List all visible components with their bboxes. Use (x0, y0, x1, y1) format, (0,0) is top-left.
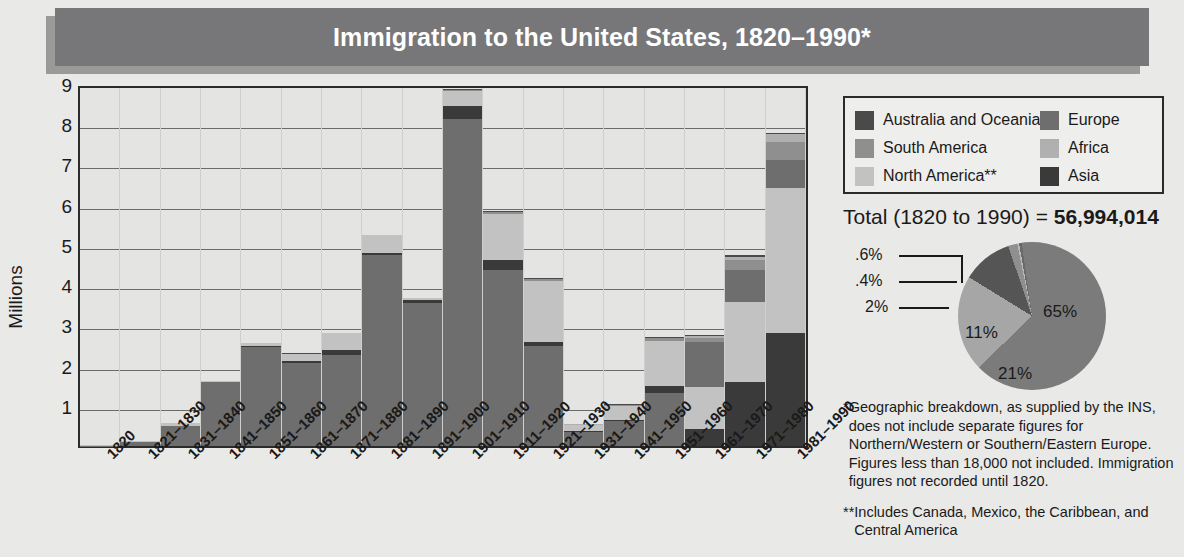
bar-segment (524, 281, 564, 342)
y-tick-label: 2 (61, 357, 72, 379)
bar-column (282, 88, 322, 446)
legend-swatch-icon (1040, 111, 1059, 130)
bar-segment (443, 91, 483, 106)
total-label: Total (1820 to 1990) = 56,994,014 (843, 205, 1159, 229)
pie-leader-line (899, 307, 949, 309)
legend-item: Australia and Oceania (855, 111, 1040, 130)
bar-segment (766, 160, 806, 188)
y-tick-label: 8 (61, 115, 72, 137)
bar-column (362, 88, 402, 446)
pie-slice-label: 21% (998, 364, 1032, 384)
bar-segment (645, 341, 685, 386)
y-tick-label: 7 (61, 155, 72, 177)
total-value: 56,994,014 (1054, 205, 1159, 228)
bar-segment (362, 235, 402, 252)
bar-column (322, 88, 362, 446)
pie-callout-label: 2% (865, 298, 888, 316)
bar-segment (725, 260, 765, 270)
y-tick-label: 4 (61, 276, 72, 298)
legend: Australia and OceaniaEuropeSouth America… (843, 96, 1164, 194)
legend-label: Asia (1068, 167, 1099, 185)
legend-item: Europe (1040, 111, 1120, 130)
bar-segment (766, 142, 806, 160)
pie-leader-line (899, 281, 957, 283)
bar-chart: Millions 123456789 18201821–18301831–184… (0, 86, 830, 556)
y-tick-label: 6 (61, 196, 72, 218)
footnote-marker: ** (843, 503, 854, 540)
legend-swatch-icon (855, 167, 874, 186)
bar-column (766, 88, 806, 446)
legend-row: North America**Asia (855, 162, 1152, 190)
bar-column (201, 88, 241, 446)
pie-callout-label: .6% (855, 246, 883, 264)
y-axis-ticks: 123456789 (36, 86, 72, 448)
total-prefix: Total (1820 to 1990) = (843, 205, 1054, 228)
legend-row: South AmericaAfrica (855, 134, 1152, 162)
bar-column (685, 88, 725, 446)
y-tick-label: 3 (61, 316, 72, 338)
footnotes: *Geographic breakdown, as supplied by th… (843, 398, 1178, 552)
bar-column (80, 88, 120, 446)
y-tick-label: 1 (61, 397, 72, 419)
stacked-bar (443, 89, 483, 446)
y-tick-label: 9 (61, 75, 72, 97)
pie-slice-label: 11% (965, 323, 998, 343)
legend-swatch-icon (855, 111, 874, 130)
bar-column (161, 88, 201, 446)
bar-column (524, 88, 564, 446)
legend-item: South America (855, 139, 1040, 158)
footnote: *Geographic breakdown, as supplied by th… (843, 398, 1178, 491)
infographic-page: Immigration to the United States, 1820–1… (0, 0, 1184, 557)
bar-segment (282, 354, 322, 361)
y-axis-title: Millions (5, 265, 27, 328)
bar-segment (443, 119, 483, 446)
bar-column (483, 88, 523, 446)
y-tick-label: 5 (61, 236, 72, 258)
legend-item: Asia (1040, 167, 1099, 186)
bar-segment (483, 214, 523, 260)
footnote-text: Includes Canada, Mexico, the Caribbean, … (854, 503, 1178, 540)
x-axis-labels: 18201821–18301831–18401841–18501851–1860… (78, 450, 808, 550)
stacked-bar (766, 133, 806, 446)
bar-column (645, 88, 685, 446)
bar-column (443, 88, 483, 446)
pie-leader-line (899, 255, 961, 257)
legend-label: Europe (1068, 111, 1120, 129)
bar-segment (725, 270, 765, 302)
footnote: **Includes Canada, Mexico, the Caribbean… (843, 503, 1178, 540)
legend-swatch-icon (1040, 167, 1059, 186)
legend-swatch-icon (855, 139, 874, 158)
page-title: Immigration to the United States, 1820–1… (333, 23, 871, 52)
bar-series-container (80, 88, 806, 446)
legend-item: Africa (1040, 139, 1109, 158)
pie-callout-label: .4% (855, 272, 883, 290)
legend-label: Africa (1068, 139, 1109, 157)
bar-segment (725, 302, 765, 382)
legend-swatch-icon (1040, 139, 1059, 158)
bar-column (564, 88, 604, 446)
legend-label: South America (883, 139, 987, 157)
pie-leader-line (961, 255, 963, 283)
bar-column (725, 88, 765, 446)
bar-column (604, 88, 644, 446)
plot-area (78, 86, 808, 448)
bar-segment (766, 134, 806, 141)
bar-segment (685, 342, 725, 387)
footnote-text: Geographic breakdown, as supplied by the… (849, 398, 1178, 491)
bar-column (120, 88, 160, 446)
bar-separator (805, 88, 806, 446)
pie-chart: 65%21%11%.6%.4%2% (843, 240, 1173, 395)
bar-segment (322, 333, 362, 349)
pie-slice-label: 65% (1043, 302, 1077, 322)
legend-row: Australia and OceaniaEurope (855, 106, 1152, 134)
title-bar: Immigration to the United States, 1820–1… (55, 8, 1149, 66)
bar-column (403, 88, 443, 446)
legend-label: Australia and Oceania (883, 111, 1040, 129)
legend-label: North America** (883, 167, 997, 185)
bar-column (241, 88, 281, 446)
bar-segment (766, 188, 806, 334)
bar-segment (443, 106, 483, 119)
legend-item: North America** (855, 167, 1040, 186)
bar-segment (483, 260, 523, 270)
